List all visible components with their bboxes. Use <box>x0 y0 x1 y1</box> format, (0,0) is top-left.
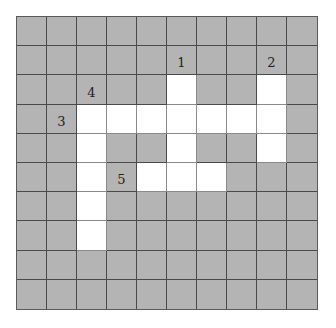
grid-cell-open[interactable] <box>167 75 197 104</box>
grid-cell-blocked <box>197 75 227 104</box>
grid-cell-blocked <box>47 75 77 104</box>
grid-cell-blocked <box>17 105 47 134</box>
grid-cell-blocked <box>47 17 77 46</box>
grid-cell-open[interactable] <box>257 134 287 163</box>
clue-number: 2 <box>257 55 286 70</box>
grid-cell-open[interactable] <box>167 163 197 192</box>
clue-number: 4 <box>77 85 106 100</box>
grid-cell-blocked <box>227 17 257 46</box>
grid-cell-open[interactable] <box>197 105 227 134</box>
grid-cell-blocked <box>257 163 287 192</box>
grid-cell-blocked <box>167 280 197 309</box>
grid-cell-blocked <box>287 251 317 280</box>
grid-cell-blocked <box>227 134 257 163</box>
grid-cell-blocked <box>197 17 227 46</box>
grid-cell-blocked <box>227 280 257 309</box>
grid-cell-blocked <box>227 221 257 250</box>
grid-cell-blocked <box>287 17 317 46</box>
grid-cell-blocked <box>197 134 227 163</box>
grid-cell-open[interactable] <box>137 163 167 192</box>
grid-cell-blocked <box>287 134 317 163</box>
grid-cell-blocked <box>17 75 47 104</box>
grid-cell-open[interactable] <box>257 105 287 134</box>
grid-cell-blocked <box>137 280 167 309</box>
grid-cell-blocked <box>47 46 77 75</box>
grid-cell-blocked: 3 <box>47 105 77 134</box>
grid-cell-open[interactable] <box>77 221 107 250</box>
grid-cell-blocked <box>77 251 107 280</box>
grid-cell-open[interactable] <box>197 163 227 192</box>
grid-cell-blocked <box>107 221 137 250</box>
clue-number: 5 <box>107 172 136 187</box>
grid-cell-open[interactable] <box>227 105 257 134</box>
grid-cell-blocked <box>137 134 167 163</box>
grid-cell-blocked <box>17 46 47 75</box>
grid-cell-blocked <box>17 280 47 309</box>
grid-cell-blocked <box>137 192 167 221</box>
grid-cell-open[interactable] <box>77 105 107 134</box>
grid-cell-open[interactable] <box>77 134 107 163</box>
grid-cell-blocked <box>107 46 137 75</box>
grid-cell-open[interactable] <box>137 105 167 134</box>
grid-cell-open[interactable] <box>77 192 107 221</box>
grid-cell-blocked <box>227 163 257 192</box>
grid-cell-blocked <box>227 192 257 221</box>
grid-cell-open[interactable] <box>167 134 197 163</box>
grid-cell-blocked <box>137 221 167 250</box>
grid-cell-blocked <box>287 75 317 104</box>
grid-cell-blocked <box>227 251 257 280</box>
grid-cell-blocked <box>47 134 77 163</box>
grid-cell-blocked <box>77 280 107 309</box>
grid-cell-blocked <box>167 221 197 250</box>
grid-cell-blocked <box>77 46 107 75</box>
grid-cell-blocked <box>197 221 227 250</box>
grid-cell-blocked <box>197 280 227 309</box>
grid-cell-blocked <box>167 192 197 221</box>
grid-cell-blocked <box>257 280 287 309</box>
grid-cell-blocked <box>197 251 227 280</box>
clue-number: 3 <box>47 114 76 129</box>
grid-cell-blocked <box>257 251 287 280</box>
grid-cell-blocked: 5 <box>107 163 137 192</box>
grid-cell-blocked <box>107 251 137 280</box>
grid-cell-blocked <box>227 46 257 75</box>
grid-cell-blocked <box>47 192 77 221</box>
grid-cell-blocked <box>137 17 167 46</box>
grid-cell-blocked <box>107 75 137 104</box>
grid-cell-blocked <box>197 46 227 75</box>
grid-cell-blocked <box>107 192 137 221</box>
grid-cell-blocked <box>257 17 287 46</box>
grid-cell-blocked <box>167 17 197 46</box>
grid-cell-blocked <box>47 280 77 309</box>
grid-cell-blocked <box>17 251 47 280</box>
grid-cell-blocked <box>107 17 137 46</box>
grid-cell-open[interactable] <box>77 163 107 192</box>
grid-cell-blocked <box>17 134 47 163</box>
grid-cell-blocked: 2 <box>257 46 287 75</box>
grid-cell-open[interactable] <box>107 105 137 134</box>
grid-cell-blocked <box>167 251 197 280</box>
grid-cell-blocked <box>17 192 47 221</box>
grid-cell-blocked <box>17 17 47 46</box>
crossword-grid: 12435 <box>16 16 318 310</box>
grid-cell-blocked <box>77 17 107 46</box>
grid-cell-blocked <box>287 280 317 309</box>
grid-cell-blocked <box>287 221 317 250</box>
grid-cell-blocked: 4 <box>77 75 107 104</box>
grid-cell-blocked: 1 <box>167 46 197 75</box>
grid-cell-blocked <box>137 251 167 280</box>
grid-cell-open[interactable] <box>167 105 197 134</box>
grid-cell-blocked <box>107 134 137 163</box>
grid-cell-blocked <box>17 163 47 192</box>
grid-cell-blocked <box>287 105 317 134</box>
grid-cell-blocked <box>197 192 227 221</box>
grid-cell-blocked <box>47 251 77 280</box>
grid-cell-blocked <box>287 163 317 192</box>
grid-cell-blocked <box>287 192 317 221</box>
grid-cell-open[interactable] <box>257 75 287 104</box>
grid-cell-blocked <box>257 221 287 250</box>
grid-cell-blocked <box>47 163 77 192</box>
grid-cell-blocked <box>17 221 47 250</box>
clue-number: 1 <box>167 55 196 70</box>
grid-cell-blocked <box>287 46 317 75</box>
